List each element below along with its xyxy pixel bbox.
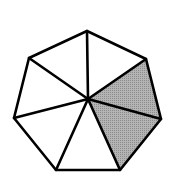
heptagon-fraction-diagram bbox=[0, 0, 183, 180]
spoke-line bbox=[87, 31, 88, 99]
